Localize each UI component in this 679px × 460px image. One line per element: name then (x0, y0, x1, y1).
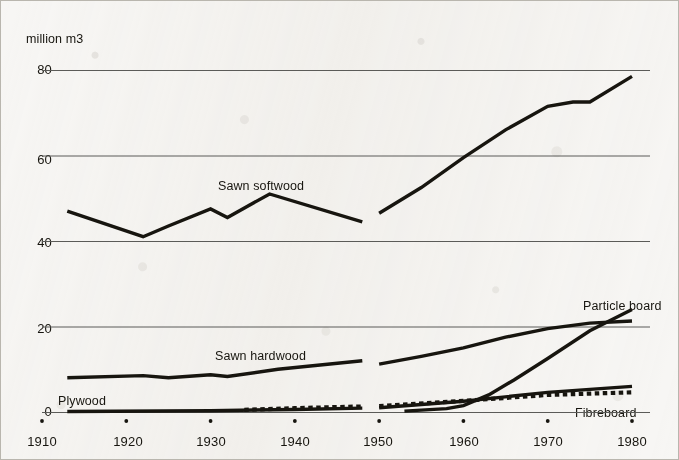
x-tick-mark-1980 (630, 419, 634, 423)
series-line-plywood-seg2 (379, 386, 632, 407)
data-lines (67, 76, 632, 411)
series-line-sawn-softwood-seg2 (379, 76, 632, 213)
chart-plot-area (0, 0, 679, 460)
chart-page: million m3 80 60 40 20 0 1910 1920 1930 … (0, 0, 679, 460)
series-line-sawn-softwood-seg1 (67, 194, 362, 237)
series-line-sawn-hardwood-seg1 (67, 361, 362, 378)
x-tick-mark-1970 (546, 419, 550, 423)
x-tick-mark-1920 (124, 419, 128, 423)
x-tick-mark-1930 (209, 419, 213, 423)
x-axis-tick-marks (40, 419, 634, 423)
x-tick-mark-1950 (377, 419, 381, 423)
x-tick-mark-1940 (293, 419, 297, 423)
x-tick-mark-1910 (40, 419, 44, 423)
x-tick-mark-1960 (462, 419, 466, 423)
